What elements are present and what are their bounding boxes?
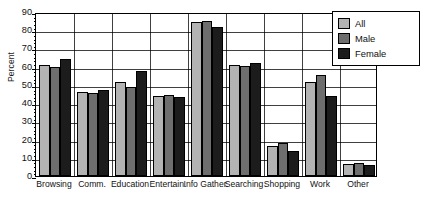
y-tick-minor — [34, 112, 36, 113]
x-tick-label: Info Gather. — [184, 179, 229, 189]
y-tick-minor — [34, 174, 36, 175]
legend-swatch-icon — [338, 33, 350, 44]
y-axis-tick-labels: 0102030405060708090 — [10, 0, 32, 215]
y-tick-minor — [34, 101, 36, 102]
y-tick-minor — [34, 29, 36, 30]
y-tick-minor — [34, 156, 36, 157]
y-tick-minor — [34, 72, 36, 73]
bar — [267, 146, 278, 176]
y-tick-major — [32, 105, 36, 106]
bar — [126, 87, 137, 176]
bar — [305, 82, 316, 176]
y-tick-minor — [34, 25, 36, 26]
bar — [278, 143, 289, 176]
x-tick-label: Education — [111, 179, 149, 189]
y-tick-minor — [34, 65, 36, 66]
bar — [316, 75, 327, 176]
bar — [240, 66, 251, 176]
y-tick-label: 50 — [14, 81, 32, 90]
y-tick-minor — [34, 171, 36, 172]
y-tick-label: 40 — [14, 100, 32, 109]
y-tick-minor — [34, 167, 36, 168]
bar — [77, 92, 88, 176]
y-tick-minor — [34, 149, 36, 150]
bar — [88, 93, 99, 176]
legend-label: Female — [355, 49, 386, 58]
bar — [212, 27, 223, 176]
y-tick-major — [32, 50, 36, 51]
y-tick-minor — [34, 18, 36, 19]
legend-item: All — [338, 16, 415, 31]
bar — [174, 97, 185, 176]
y-tick-label: 20 — [14, 136, 32, 145]
bars-layer — [36, 14, 376, 176]
y-tick-minor — [34, 76, 36, 77]
bar — [60, 59, 71, 176]
y-tick-label: 10 — [14, 154, 32, 163]
bar — [191, 22, 202, 176]
bar — [39, 65, 50, 176]
y-tick-label: 0 — [14, 172, 32, 181]
y-tick-minor — [34, 21, 36, 22]
x-tick-label: Entertain. — [150, 179, 187, 189]
y-tick-major — [32, 123, 36, 124]
plot-area — [35, 13, 377, 177]
y-tick-label: 70 — [14, 45, 32, 54]
x-tick-label: Browsing — [36, 179, 71, 189]
legend: AllMaleFemale — [332, 11, 420, 66]
y-tick-minor — [34, 120, 36, 121]
y-tick-minor — [34, 43, 36, 44]
bar — [115, 82, 126, 176]
y-tick-minor — [34, 58, 36, 59]
legend-swatch-icon — [338, 18, 350, 29]
x-tick-label: Work — [310, 179, 330, 189]
y-tick-minor — [34, 40, 36, 41]
y-tick-major — [32, 160, 36, 161]
bar — [136, 71, 147, 176]
legend-swatch-icon — [338, 48, 350, 59]
y-tick-minor — [34, 116, 36, 117]
bar — [50, 67, 61, 176]
x-tick-label: Searching — [225, 179, 264, 189]
y-tick-minor — [34, 145, 36, 146]
y-tick-major — [32, 32, 36, 33]
y-tick-major — [32, 87, 36, 88]
bar — [202, 21, 213, 176]
y-tick-minor — [34, 61, 36, 62]
legend-label: Male — [355, 34, 375, 43]
y-tick-minor — [34, 109, 36, 110]
y-tick-major — [32, 142, 36, 143]
y-tick-minor — [34, 91, 36, 92]
x-tick-label: Other — [347, 179, 369, 189]
y-tick-label: 30 — [14, 118, 32, 127]
x-axis-tick-labels: BrowsingComm.EducationEntertain.Info Gat… — [35, 179, 377, 199]
x-tick-label: Comm. — [78, 179, 106, 189]
bar — [326, 96, 337, 176]
y-tick-minor — [34, 131, 36, 132]
y-tick-minor — [34, 47, 36, 48]
y-tick-minor — [34, 163, 36, 164]
y-tick-minor — [34, 54, 36, 55]
bar — [164, 95, 175, 176]
bar — [343, 164, 354, 176]
bar — [354, 163, 365, 176]
legend-item: Female — [338, 46, 415, 61]
y-tick-label: 80 — [14, 27, 32, 36]
y-tick-minor — [34, 94, 36, 95]
y-tick-major — [32, 14, 36, 15]
x-tick-label: Shopping — [264, 179, 300, 189]
y-tick-minor — [34, 127, 36, 128]
y-tick-label: 90 — [14, 8, 32, 17]
bar — [250, 63, 261, 176]
bar — [288, 151, 299, 176]
bar — [364, 165, 375, 176]
bar — [98, 90, 109, 176]
y-tick-minor — [34, 134, 36, 135]
legend-label: All — [355, 19, 365, 28]
y-tick-minor — [34, 152, 36, 153]
y-tick-minor — [34, 80, 36, 81]
y-tick-minor — [34, 36, 36, 37]
bar — [229, 65, 240, 176]
y-tick-minor — [34, 98, 36, 99]
bar-chart: Percent 0102030405060708090 BrowsingComm… — [0, 0, 427, 215]
